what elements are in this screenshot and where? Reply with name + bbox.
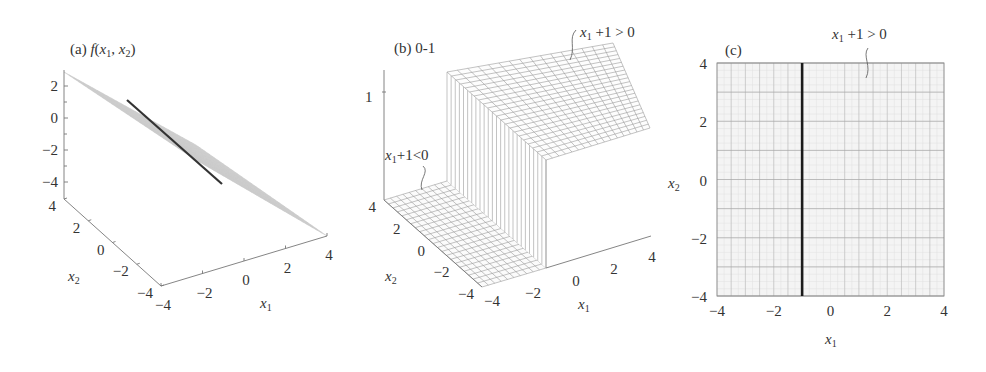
svg-text:4: 4 — [49, 198, 57, 214]
panel-c-annotation: x1 +1 > 0 — [831, 26, 887, 44]
svg-text:4: 4 — [700, 56, 708, 72]
panel-b-z-tick-1: 1 — [365, 89, 373, 105]
svg-text:−4: −4 — [137, 285, 153, 301]
panel-b-annotation-low-leader — [421, 166, 425, 190]
svg-text:−2: −2 — [766, 303, 782, 319]
svg-text:2: 2 — [610, 261, 618, 277]
svg-text:−2: −2 — [525, 285, 541, 301]
svg-text:0: 0 — [97, 242, 105, 258]
svg-text:2: 2 — [393, 221, 401, 237]
svg-text:2: 2 — [700, 114, 708, 130]
svg-text:−2: −2 — [42, 142, 58, 158]
svg-text:−4: −4 — [42, 174, 58, 190]
svg-text:4: 4 — [325, 247, 333, 263]
svg-text:2: 2 — [284, 260, 292, 276]
svg-text:0: 0 — [51, 110, 59, 126]
panel-b-step-surface-plot: 420−2−4 −4−2024 1 (b) 0-1 x1+1<0 x1 +1 >… — [365, 24, 656, 314]
panel-b-x1-label: x1 — [577, 296, 590, 314]
svg-text:4: 4 — [369, 199, 377, 215]
panel-a-zero-contour-line — [127, 100, 222, 184]
svg-text:−2: −2 — [197, 285, 213, 301]
svg-text:2: 2 — [884, 303, 892, 319]
svg-text:−2: −2 — [691, 231, 707, 247]
svg-text:0: 0 — [572, 273, 580, 289]
panel-a-surface-plot: −4−202 420−2−4 −4−2024 (a) f(x1, x2) x2 … — [42, 41, 333, 313]
panel-a-x2-label: x2 — [67, 268, 80, 286]
svg-text:−2: −2 — [113, 263, 129, 279]
panel-a-x1-ticks: −4−2024 — [155, 233, 333, 313]
panel-b-annotation-low: x1+1<0 — [384, 147, 429, 165]
svg-text:4: 4 — [648, 249, 656, 265]
panel-a-x2-ticks: 420−2−4 — [49, 198, 165, 301]
panel-c-x2-label: x2 — [667, 175, 680, 193]
panel-c-title: (c) — [725, 42, 742, 59]
svg-text:2: 2 — [51, 78, 59, 94]
panel-b-x2-label: x2 — [384, 268, 397, 286]
panel-a-mesh — [64, 72, 327, 236]
svg-text:0: 0 — [242, 272, 250, 288]
panel-b-title: (b) 0-1 — [394, 40, 435, 57]
panel-c-x1-ticks: −4−2024 — [709, 303, 948, 319]
figure-canvas: −4−202 420−2−4 −4−2024 (a) f(x1, x2) x2 … — [0, 0, 986, 372]
svg-text:4: 4 — [940, 303, 948, 319]
svg-text:−4: −4 — [458, 286, 474, 302]
svg-text:0: 0 — [827, 303, 835, 319]
panel-c-x1-label: x1 — [824, 331, 837, 349]
svg-text:−2: −2 — [434, 264, 450, 280]
panel-c-region-plot: −4−2024 −4−2024 (c) x1 +1 > 0 x2 x1 — [667, 26, 948, 349]
panel-c-x2-ticks: −4−2024 — [691, 56, 707, 305]
svg-text:0: 0 — [700, 173, 708, 189]
panel-b-annotation-high: x1 +1 > 0 — [579, 24, 635, 42]
svg-text:2: 2 — [73, 220, 81, 236]
panel-a-x1-label: x1 — [259, 295, 272, 313]
svg-text:−4: −4 — [155, 297, 171, 313]
svg-text:0: 0 — [418, 243, 426, 259]
svg-text:−4: −4 — [484, 293, 500, 309]
svg-text:−4: −4 — [691, 289, 707, 305]
svg-text:−4: −4 — [709, 303, 725, 319]
panel-a-title: (a) f(x1, x2) — [70, 41, 135, 59]
